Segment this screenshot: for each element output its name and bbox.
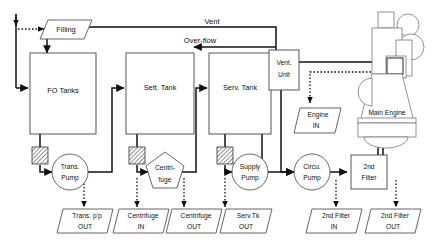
terminal-label-1: 2nd Filter: [381, 212, 410, 219]
fuel-oil-system-diagram: Filling FO Tanks Sett. Tank Serv. Tank V…: [0, 0, 434, 243]
terminal-label-2: OUT: [78, 223, 92, 230]
pump-trans-label-1: Trans.: [61, 163, 80, 170]
terminal-label-1: Centrifuge: [128, 212, 159, 220]
pump-trans[interactable]: Trans. Pump: [52, 154, 88, 190]
engine-base: [358, 123, 416, 137]
terminal-label-2: IN: [331, 223, 338, 230]
node-second-filter[interactable]: 2nd Filter: [351, 155, 387, 189]
node-centrifuge-label-2: fuge: [158, 176, 171, 184]
terminal-label-2: OUT: [386, 223, 400, 230]
pump-circu-label-1: Circu.: [303, 163, 321, 170]
engine-bedplate-band: [358, 118, 416, 123]
terminal-label-2: IN: [138, 223, 145, 230]
node-main-engine-label: Main Engine: [368, 109, 405, 117]
diagram-canvas: Filling FO Tanks Sett. Tank Serv. Tank V…: [0, 0, 434, 243]
node-vent-unit-label-2: Unit: [278, 71, 290, 78]
node-main-engine[interactable]: Main Engine: [358, 12, 424, 148]
node-centrifuge-label-1: Centri-: [155, 164, 175, 171]
terminal-centrifuge-in[interactable]: Centrifuge IN: [113, 209, 169, 233]
engine-sump: [364, 137, 408, 148]
node-vent-unit[interactable]: Vent. Unit: [269, 50, 299, 90]
terminal-trans-pump-out[interactable]: Trans. p'p OUT: [57, 209, 113, 233]
pump-circu[interactable]: Circu. Pump: [294, 154, 330, 190]
node-engine-in[interactable]: Engine IN: [294, 108, 341, 133]
node-vent-unit-label-1: Vent.: [276, 59, 291, 66]
node-filling-label: Filling: [56, 25, 75, 34]
engine-left-housing: [358, 78, 372, 106]
valve-serv-tank[interactable]: [217, 147, 233, 164]
terminal-centrifuge-out[interactable]: Centrifuge OUT: [166, 209, 222, 233]
terminal-label-2: OUT: [239, 223, 253, 230]
node-fo-tanks-label: FO Tanks: [47, 86, 79, 95]
node-engine-in-label-2: IN: [313, 122, 320, 129]
terminal-serv-tank-out[interactable]: Serv.Tk OUT: [220, 209, 272, 233]
engine-inlet-port: [387, 58, 403, 74]
pump-supply-label-1: Supply: [240, 163, 261, 171]
pipe-valve-to-trans-pump: [40, 165, 52, 172]
pump-circu-label-2: Pump: [303, 174, 321, 182]
node-serv-tank[interactable]: Serv. Tank: [209, 53, 271, 134]
terminal-second-filter-in[interactable]: 2nd Filter IN: [306, 209, 362, 233]
flow-label-vent: Vent: [204, 17, 220, 26]
terminal-label-1: Trans. p'p: [72, 212, 102, 220]
node-centrifuge[interactable]: Centri- fuge: [146, 152, 184, 188]
node-filling[interactable]: Filling: [40, 20, 92, 39]
pump-trans-label-2: Pump: [61, 174, 79, 182]
node-engine-in-label-1: Engine: [308, 111, 329, 119]
engine-top-stack: [378, 12, 394, 28]
valve-fo-tanks[interactable]: [32, 147, 48, 164]
flow-label-overflow: Over-flow: [184, 36, 217, 45]
pipe-valve-to-supply-pump: [225, 165, 232, 172]
pump-supply[interactable]: Supply Pump: [232, 154, 268, 190]
terminal-label-1: 2nd Filter: [322, 212, 351, 219]
node-second-filter-label-1: 2nd: [363, 163, 374, 170]
node-fo-tanks[interactable]: FO Tanks: [30, 53, 96, 134]
terminal-label-1: Serv.Tk: [237, 212, 260, 219]
node-serv-tank-label: Serv. Tank: [223, 83, 258, 92]
node-second-filter-label-2: Filter: [362, 174, 378, 181]
pump-supply-label-2: Pump: [241, 174, 259, 182]
terminal-second-filter-out[interactable]: 2nd Filter OUT: [365, 209, 421, 233]
terminal-label-2: OUT: [187, 223, 201, 230]
valve-sett-tank[interactable]: [129, 147, 145, 164]
terminal-label-1: Centrifuge: [181, 212, 212, 220]
node-sett-tank-label: Sett. Tank: [144, 83, 177, 92]
node-sett-tank[interactable]: Sett. Tank: [126, 53, 194, 134]
